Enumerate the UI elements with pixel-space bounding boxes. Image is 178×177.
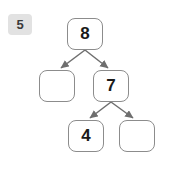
tree-node-right-child[interactable]: 7 <box>93 70 129 102</box>
tree-node-left-child[interactable] <box>39 70 75 102</box>
edge-root-to-right-child <box>85 50 108 68</box>
tree-node-grand-left[interactable]: 4 <box>68 120 104 152</box>
tree-node-grand-right[interactable] <box>119 120 155 152</box>
edge-right-child-to-grand-left <box>90 102 111 118</box>
edge-root-to-left-child <box>61 50 85 68</box>
tree-node-root[interactable]: 8 <box>67 18 103 50</box>
diagram-canvas: 5 8 7 4 <box>0 0 178 177</box>
edge-right-child-to-grand-right <box>111 102 133 118</box>
